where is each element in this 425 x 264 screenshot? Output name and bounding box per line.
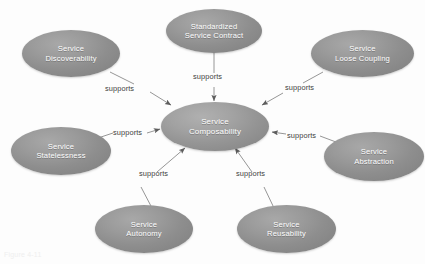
node-label: Service Statelessness [32, 142, 89, 161]
edge-label-service-abstraction: supports [287, 131, 316, 140]
node-service-composability[interactable]: Service Composability [161, 102, 269, 151]
node-label: Service Autonomy [122, 220, 165, 239]
edge-label-service-autonomy: supports [139, 169, 168, 178]
figure-caption: Figure 4-11 [4, 251, 41, 258]
node-service-abstraction[interactable]: Service Abstraction [324, 132, 424, 181]
node-standardized-service-contract[interactable]: Standardized Service Contract [166, 9, 262, 53]
node-label: Service Discoverability [41, 44, 100, 63]
node-service-reusability[interactable]: Service Reusability [237, 205, 336, 253]
node-label: Service Abstraction [350, 147, 398, 166]
edge-label-standardized-service-contract: supports [193, 72, 222, 81]
node-label: Service Reusability [263, 220, 310, 239]
edge-service-autonomy [141, 148, 185, 208]
node-label: Service Loose Coupling [331, 44, 394, 63]
node-service-loose-coupling[interactable]: Service Loose Coupling [311, 30, 414, 77]
node-label: Standardized Service Contract [181, 22, 248, 41]
diagram-canvas: Standardized Service Contract Service Di… [0, 0, 425, 264]
edge-label-service-loose-coupling: supports [285, 83, 314, 92]
edge-label-service-discoverability: supports [105, 84, 134, 93]
node-label: Service Composability [185, 117, 245, 137]
edge-label-service-statelessness: supports [113, 128, 142, 137]
node-service-statelessness[interactable]: Service Statelessness [11, 127, 111, 175]
edge-service-reusability [235, 148, 274, 208]
edge-label-service-reusability: supports [236, 169, 265, 178]
node-service-autonomy[interactable]: Service Autonomy [95, 205, 193, 253]
node-service-discoverability[interactable]: Service Discoverability [22, 30, 120, 77]
